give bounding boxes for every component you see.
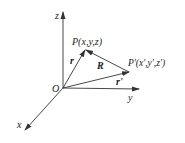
- origin-label: O: [52, 83, 59, 94]
- x-axis-label: x: [16, 119, 22, 130]
- y-axis: [63, 88, 139, 89]
- vector-R-label: R: [96, 60, 104, 71]
- vector-R: [86, 50, 129, 72]
- vector-r-prime-label: r': [116, 76, 123, 87]
- z-axis-label: z: [54, 10, 59, 21]
- coordinate-diagram: z y x O P(x,y,z) P'(x',y',z') r r' R: [0, 0, 185, 143]
- point-p-label: P(x,y,z): [71, 36, 103, 48]
- y-axis-label: y: [127, 92, 133, 103]
- vector-r: [63, 50, 85, 88]
- vector-r-label: r: [70, 55, 74, 66]
- point-p-prime-label: P'(x',y',z'): [127, 58, 165, 69]
- x-axis: [25, 88, 63, 130]
